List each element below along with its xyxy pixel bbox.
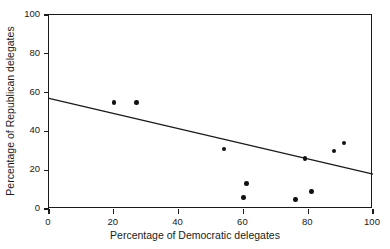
y-tick-label-0: 0 (16, 203, 40, 213)
data-point (293, 197, 298, 202)
x-tick-80 (308, 209, 309, 214)
y-tick-label-80: 80 (16, 48, 40, 58)
y-tick-label-100: 100 (16, 9, 40, 19)
x-tick-60 (243, 209, 244, 214)
x-tick-label-0: 0 (33, 217, 63, 227)
y-tick-label-60: 60 (16, 87, 40, 97)
x-tick-label-60: 60 (227, 217, 257, 227)
y-tick-label-40: 40 (16, 125, 40, 135)
scatter-plot-figure: Percentage of Republican delegates 02040… (0, 0, 390, 249)
x-tick-label-40: 40 (163, 217, 193, 227)
x-tick-label-20: 20 (98, 217, 128, 227)
y-tick-40 (44, 131, 49, 132)
plot-frame (48, 14, 372, 208)
x-tick-100 (372, 209, 373, 214)
data-point (244, 181, 249, 186)
y-tick-label-20: 20 (16, 164, 40, 174)
data-point (134, 100, 139, 105)
x-tick-label-80: 80 (292, 217, 322, 227)
data-point (241, 195, 246, 200)
y-tick-80 (44, 53, 49, 54)
x-tick-0 (48, 209, 49, 214)
data-point (303, 156, 308, 161)
x-tick-label-100: 100 (357, 217, 387, 227)
data-point (112, 100, 117, 105)
x-tick-40 (178, 209, 179, 214)
plot-area (49, 15, 371, 207)
regression-trendline (49, 15, 373, 209)
x-tick-20 (113, 209, 114, 214)
y-tick-20 (44, 170, 49, 171)
data-point (309, 189, 314, 194)
y-axis-title: Percentage of Republican delegates (4, 1, 16, 221)
y-tick-60 (44, 92, 49, 93)
y-tick-100 (44, 14, 49, 15)
x-axis-title: Percentage of Democratic delegates (0, 229, 390, 241)
